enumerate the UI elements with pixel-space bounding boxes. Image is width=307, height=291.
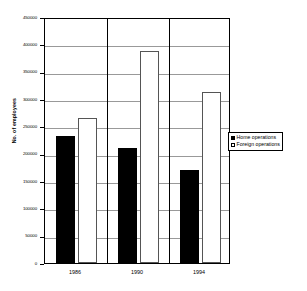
- y-axis-tick-label: 100000: [1, 207, 37, 211]
- y-axis-tick-labels: 4500004000003500003000002500002000001500…: [0, 0, 44, 291]
- legend-label: Home operations: [237, 135, 277, 140]
- bar-home-operations-1994: [180, 170, 199, 263]
- y-axis-tick-label: 400000: [1, 43, 37, 47]
- bar-foreign-operations-1986: [78, 118, 97, 263]
- legend-item-foreign-operations: Foreign operations: [231, 142, 280, 149]
- filled-square-icon: [231, 136, 235, 140]
- empty-square-icon: [231, 143, 235, 147]
- bars-layer: [45, 19, 229, 263]
- plot-area: [44, 18, 230, 264]
- y-axis-tick-label: 250000: [1, 125, 37, 129]
- y-axis-tick-label: 0: [1, 262, 37, 266]
- bar-home-operations-1990: [118, 148, 137, 263]
- y-axis-tick-label: 300000: [1, 98, 37, 102]
- bar-group: [45, 19, 107, 263]
- y-axis-tick-label: 200000: [1, 152, 37, 156]
- category-separator: [169, 19, 170, 263]
- y-axis-tick-mark: [40, 264, 44, 265]
- bar-chart: No. of employees 45000040000035000030000…: [0, 0, 307, 291]
- y-axis-tick-label: 50000: [1, 234, 37, 238]
- x-axis-tick-label: 1994: [168, 270, 230, 275]
- y-axis-tick-label: 450000: [1, 16, 37, 20]
- x-axis-tick-label: 1990: [106, 270, 168, 275]
- x-axis-tick-label: 1986: [44, 270, 106, 275]
- bar-home-operations-1986: [56, 136, 75, 263]
- chart-legend: Home operations Foreign operations: [228, 132, 283, 151]
- x-axis-tick-labels: 198619901994: [44, 270, 230, 282]
- bar-group: [169, 19, 231, 263]
- bar-foreign-operations-1990: [140, 51, 159, 263]
- legend-label: Foreign operations: [237, 142, 280, 147]
- bar-foreign-operations-1994: [202, 92, 221, 263]
- y-axis-tick-label: 350000: [1, 70, 37, 74]
- y-axis-tick-label: 150000: [1, 180, 37, 184]
- category-separator: [107, 19, 108, 263]
- bar-group: [107, 19, 169, 263]
